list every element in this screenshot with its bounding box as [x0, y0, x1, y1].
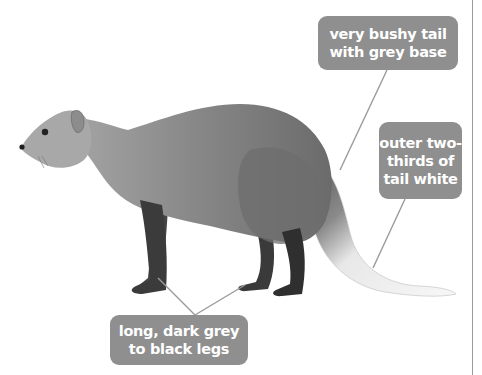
callout-legs: long, dark grey to black legs [110, 315, 248, 365]
page-edge-rule [472, 0, 473, 375]
callout-text-line: long, dark grey [119, 322, 240, 340]
leader-line-hind-leg [195, 285, 245, 315]
callout-text-line: thirds of [387, 152, 454, 170]
callout-text-line: with grey base [330, 43, 447, 61]
callout-text-line: tail white [383, 170, 457, 188]
nose [19, 144, 24, 149]
leader-line-tail-white [373, 199, 405, 268]
eye [42, 129, 48, 135]
callout-tail-white: outer two- thirds of tail white [379, 122, 462, 199]
illustration-canvas: very bushy tail with grey base outer two… [0, 0, 482, 375]
leader-line-front-leg [158, 278, 195, 315]
callout-text-line: to black legs [129, 340, 229, 358]
callout-text-line: very bushy tail [329, 25, 446, 43]
callout-tail-base: very bushy tail with grey base [318, 16, 458, 70]
callout-text-line: outer two- [379, 134, 462, 152]
